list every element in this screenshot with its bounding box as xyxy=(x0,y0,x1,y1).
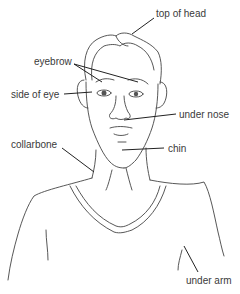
pointer-side-of-eye xyxy=(64,92,92,94)
pointer-under-arm xyxy=(184,246,198,272)
collar-inner xyxy=(76,186,160,227)
label-top-of-head: top of head xyxy=(156,9,206,19)
face-right xyxy=(124,84,158,168)
left-pupil xyxy=(102,91,107,96)
hair-outline xyxy=(84,33,161,84)
pointer-under-nose xyxy=(124,114,176,120)
left-arm-crease xyxy=(46,230,48,260)
left-shoulder xyxy=(8,178,92,280)
right-pupil xyxy=(134,92,138,96)
right-arm-crease xyxy=(178,250,182,270)
neck-left xyxy=(92,150,96,178)
nose xyxy=(109,96,130,120)
label-collarbone: collarbone xyxy=(11,140,57,150)
neck-center xyxy=(106,170,112,190)
neck-center-r xyxy=(126,168,132,190)
label-under-arm: under arm xyxy=(186,276,232,286)
pointer-eyebrow-2 xyxy=(74,64,138,82)
diagram-canvas: top of head eyebrow side of eye under no… xyxy=(0,0,240,294)
pointer-collarbone xyxy=(62,148,94,172)
label-chin: chin xyxy=(168,144,186,154)
neck-right xyxy=(146,148,150,180)
hair-inner xyxy=(92,43,155,80)
lower-lip xyxy=(114,134,128,136)
label-eyebrow: eyebrow xyxy=(34,57,72,67)
label-under-nose: under nose xyxy=(179,110,229,120)
collar-outer xyxy=(70,186,166,233)
right-shoulder xyxy=(150,180,224,256)
label-side-of-eye: side of eye xyxy=(11,90,59,100)
pointer-top-of-head xyxy=(132,18,154,34)
mouth xyxy=(110,127,132,129)
pointer-eyebrow-1 xyxy=(74,64,102,82)
